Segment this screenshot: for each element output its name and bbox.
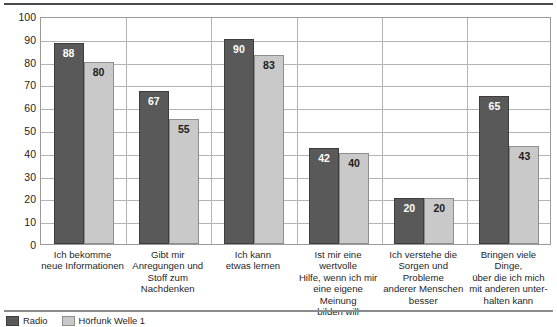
- bar-group: 4240: [297, 18, 382, 244]
- bar: 43: [509, 146, 539, 244]
- bar-value-label: 20: [395, 203, 423, 214]
- bar: 20: [424, 198, 454, 244]
- bar-value-label: 80: [85, 67, 113, 78]
- x-category-label: Ich kannetwas lernen: [210, 249, 295, 272]
- x-category-label: Ist mir eine wertvolleHilfe, wenn ich mi…: [296, 249, 381, 317]
- bar-groups: 888067559083424020206543: [41, 18, 550, 244]
- bar-group: 8880: [41, 18, 126, 244]
- y-tick-label: 0: [2, 240, 36, 250]
- y-tick-label: 20: [2, 194, 36, 204]
- bar: 83: [254, 55, 284, 244]
- bar: 40: [339, 153, 369, 244]
- bar: 67: [139, 91, 169, 244]
- bar: 42: [309, 148, 339, 244]
- bar-value-label: 40: [340, 158, 368, 169]
- bar: 88: [54, 43, 84, 244]
- bar-value-label: 43: [510, 151, 538, 162]
- chart-legend: RadioHörfunk Welle 1: [6, 315, 145, 327]
- bar: 80: [84, 62, 114, 244]
- x-category-label: Ich verstehe dieSorgen und Problemeander…: [381, 249, 466, 306]
- bar-value-label: 55: [170, 124, 198, 135]
- bar-value-label: 20: [425, 203, 453, 214]
- y-tick-label: 70: [2, 80, 36, 90]
- y-tick-label: 30: [2, 172, 36, 182]
- legend-divider-rule: [4, 310, 553, 312]
- bar-value-label: 42: [310, 153, 338, 164]
- x-category-label: Bringen viele Dinge,über die ich michmit…: [466, 249, 551, 306]
- y-tick-label: 60: [2, 103, 36, 113]
- legend-item[interactable]: Radio: [6, 316, 48, 326]
- bar-value-label: 83: [255, 60, 283, 71]
- legend-label: Radio: [23, 316, 48, 326]
- bar-group: 6755: [126, 18, 211, 244]
- bar: 20: [394, 198, 424, 244]
- top-divider-rule: [4, 3, 553, 5]
- x-category-label: Gibt mirAnregungen undStoff zumNachdenke…: [125, 249, 210, 295]
- bar-value-label: 67: [140, 96, 168, 107]
- bar-group: 2020: [382, 18, 467, 244]
- legend-swatch-icon: [6, 316, 19, 326]
- legend-item[interactable]: Hörfunk Welle 1: [62, 316, 146, 326]
- y-tick-label: 90: [2, 35, 36, 45]
- plot-area: 888067559083424020206543: [40, 17, 551, 245]
- x-axis-category-labels: Ich bekommeneue InformationenGibt mirAnr…: [40, 249, 551, 307]
- bar: 55: [169, 119, 199, 244]
- y-tick-label: 10: [2, 217, 36, 227]
- bar-value-label: 65: [480, 101, 508, 112]
- y-tick-label: 80: [2, 58, 36, 68]
- bar-value-label: 88: [55, 48, 83, 59]
- y-tick-label: 100: [2, 12, 36, 22]
- x-category-label: Ich bekommeneue Informationen: [40, 249, 125, 272]
- y-tick-label: 50: [2, 126, 36, 136]
- bar: 65: [479, 96, 509, 244]
- bar-group: 6543: [467, 18, 552, 244]
- bar-group: 9083: [211, 18, 296, 244]
- bar: 90: [224, 39, 254, 244]
- legend-swatch-icon: [62, 316, 75, 326]
- bar-value-label: 90: [225, 44, 253, 55]
- y-axis-tick-labels: 0102030405060708090100: [0, 17, 36, 245]
- legend-label: Hörfunk Welle 1: [79, 316, 146, 326]
- y-tick-label: 40: [2, 149, 36, 159]
